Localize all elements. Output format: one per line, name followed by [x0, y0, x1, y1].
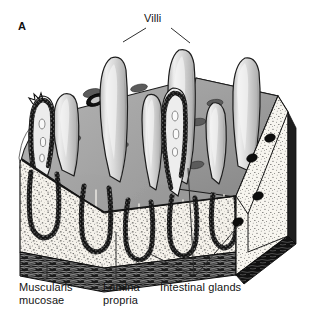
illustration-intestinal-mucosa	[0, 0, 310, 316]
label-muscularis-mucosae: Muscularis mucosae	[19, 281, 73, 306]
label-villi: Villi	[144, 12, 161, 25]
label-intestinal-glands: Intestinal glands	[160, 281, 241, 294]
leader-villi-left	[123, 28, 146, 42]
panel-letter: A	[18, 20, 26, 32]
label-lamina-propria: Lamina propria	[103, 281, 140, 306]
figure-intestinal-mucosa: A Villi Muscularis mucosae Lamina propri…	[0, 0, 310, 316]
leader-villi-right	[171, 28, 190, 43]
